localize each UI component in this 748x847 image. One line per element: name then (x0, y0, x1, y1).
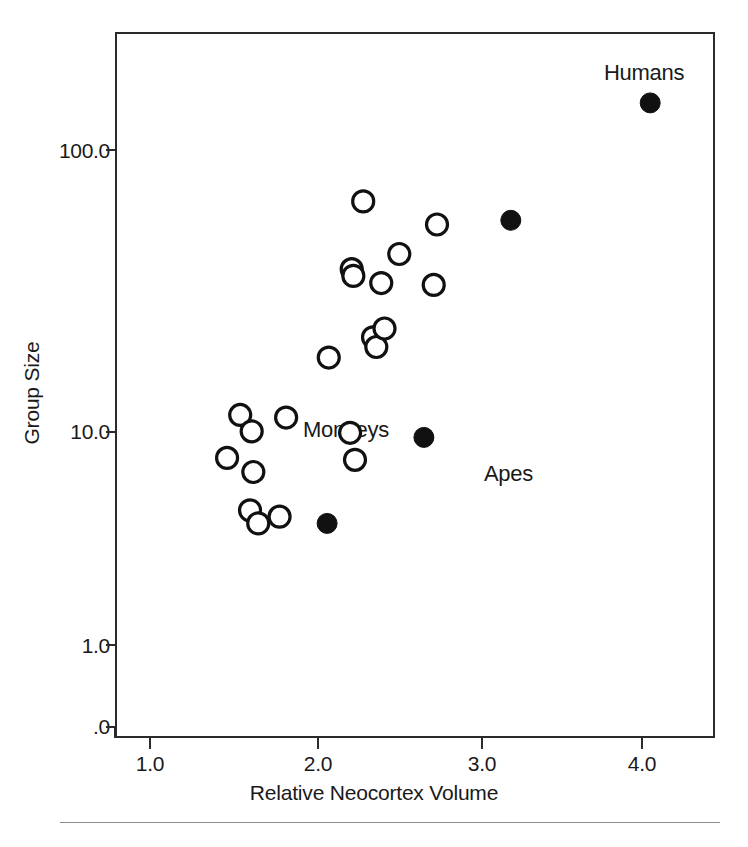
bottom-rule (60, 822, 720, 823)
scatter-plot-canvas (0, 0, 748, 847)
data-point-open (371, 273, 392, 294)
data-point-open (269, 506, 290, 527)
data-point-open (318, 347, 339, 368)
data-point-open (389, 244, 410, 265)
data-point-filled (317, 513, 337, 533)
data-point-open (217, 447, 238, 468)
data-point-open (276, 407, 297, 428)
data-point-open (248, 513, 269, 534)
data-point-open (427, 214, 448, 235)
tick-marks (106, 150, 642, 749)
data-point-open (353, 191, 374, 212)
data-point-open (345, 449, 366, 470)
data-point-filled (414, 427, 434, 447)
data-point-open (343, 265, 364, 286)
data-point-open (340, 422, 361, 443)
figure-container: 100.0 10.0 1.0 .0 1.0 2.0 3.0 4.0 Relati… (0, 0, 748, 847)
data-point-open (243, 462, 264, 483)
data-point-open (241, 421, 262, 442)
data-point-open (374, 318, 395, 339)
data-point-open (423, 274, 444, 295)
data-point-filled (501, 210, 521, 230)
data-points-layer (217, 93, 661, 534)
data-point-filled (640, 93, 660, 113)
